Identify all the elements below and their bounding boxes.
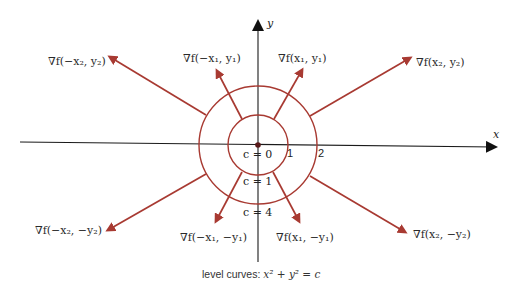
arrow-x2-neg-y2 <box>310 176 405 232</box>
arrow-neg-x2-neg-y2 <box>108 174 206 230</box>
diagram-canvas <box>0 0 513 289</box>
level-label-c1: c = 1 <box>243 176 272 187</box>
label-grad-x1-neg-y1: ∇f(x₁, −y₁) <box>276 232 334 243</box>
y-axis-label: y <box>267 18 273 29</box>
level-label-c4: c = 4 <box>243 207 272 218</box>
arrow-neg-x1-y1 <box>217 71 242 119</box>
level-label-c0: c = 0 <box>243 149 272 160</box>
label-grad-neg-x2-y2: ∇f(−x₂, y₂) <box>48 56 106 67</box>
arrow-x2-y2 <box>310 58 410 116</box>
label-grad-x1-y1: ∇f(x₁, y₁) <box>278 53 327 64</box>
label-grad-neg-x2-neg-y2: ∇f(−x₂, −y₂) <box>35 225 102 236</box>
arrow-neg-x2-y2 <box>110 57 206 115</box>
label-grad-x2-neg-y2: ∇f(x₂, −y₂) <box>413 229 471 240</box>
x-axis-label: x <box>493 129 499 140</box>
caption: level curves: x² + y² = c <box>202 269 320 280</box>
radius-label-2: 2 <box>318 148 324 159</box>
origin-point-c0 <box>255 142 261 148</box>
label-grad-x2-y2: ∇f(x₂, y₂) <box>416 57 465 68</box>
caption-prefix: level curves: <box>202 268 260 280</box>
arrow-x1-neg-y1 <box>273 172 299 221</box>
radius-label-1: 1 <box>287 148 293 159</box>
label-grad-neg-x1-neg-y1: ∇f(−x₁, −y₁) <box>180 232 247 243</box>
caption-equation: x² + y² = c <box>263 268 320 280</box>
arrow-neg-x1-neg-y1 <box>216 172 242 221</box>
gradient-diagram: y x 1 2 c = 0 c = 1 c = 4 ∇f(−x₂, y₂) ∇f… <box>0 0 513 289</box>
label-grad-neg-x1-y1: ∇f(−x₁, y₁) <box>183 53 241 64</box>
arrow-x1-y1 <box>274 70 302 119</box>
